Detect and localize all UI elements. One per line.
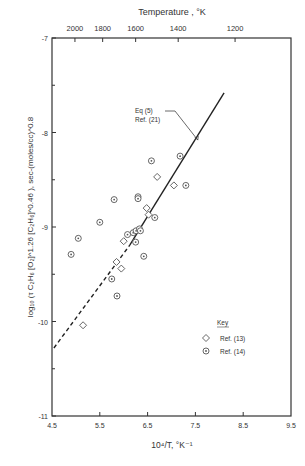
plot-border [52,38,291,416]
chart: Temperature , °K 200018001600140012004.5… [0,0,305,466]
diamond-marker [120,238,127,245]
diamond-marker [80,322,87,329]
diamond-marker [203,335,210,342]
axis-labels: 10⁴/T, °K⁻¹log₁₀ (τ C₂H₆ [O₂]^1.26 [C₂H₆… [26,116,193,450]
y-tick-label: -7 [42,35,48,42]
annotation: Eq (5)Ref. (21) [135,107,198,140]
y-tick-label: -11 [38,413,48,420]
top-axis-title: Temperature , °K [138,7,206,17]
plot-frame [52,38,291,416]
top-tick-label: 1400 [170,24,187,33]
x-tick-label: 7.5 [191,422,201,429]
x-tick-label: 8.5 [238,422,248,429]
axis-ticks: 200018001600140012004.55.56.57.58.59.5-7… [38,24,296,429]
x-tick-label: 5.5 [95,422,105,429]
diamond-marker [154,173,161,180]
y-tick-label: -9 [42,224,48,231]
annotation-line-2: Ref. (21) [135,116,160,124]
y-tick-label: -8 [42,130,48,137]
legend-label: Ref. (14) [220,348,245,356]
top-tick-label: 2000 [67,24,84,33]
x-tick-label: 4.5 [47,422,57,429]
diamond-marker [170,182,177,189]
diamond-marker [118,265,125,272]
annotation-line-1: Eq (5) [135,107,153,115]
diamond-marker [113,258,120,265]
top-tick-label: 1200 [227,24,244,33]
top-tick-label: 1800 [94,24,111,33]
legend-label: Ref. (13) [220,335,245,343]
x-tick-label: 9.5 [286,422,296,429]
y-tick-label: -10 [38,319,48,326]
y-axis-label: log₁₀ (τ C₂H₆ [O₂]^1.26 [C₂H₆]^0.46 ), s… [26,116,35,317]
top-tick-label: 1600 [127,24,144,33]
diamond-marker [143,205,150,212]
x-tick-label: 6.5 [143,422,153,429]
fit-line [54,93,224,348]
diamond-marker [145,211,152,218]
legend: KeyRef. (13)Ref. (14) [203,319,246,356]
annotation-arrow [165,111,198,140]
legend-title: Key [217,319,229,327]
top-axis-title-text: Temperature , °K [138,7,206,17]
x-axis-label: 10⁴/T, °K⁻¹ [151,440,193,450]
